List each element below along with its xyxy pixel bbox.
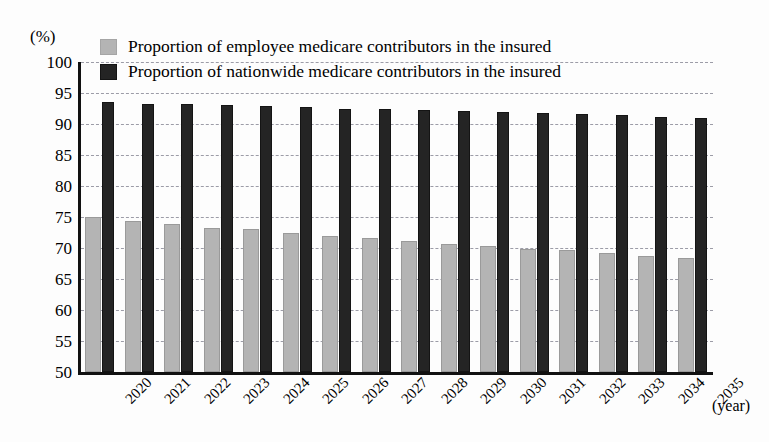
x-tick-label: 2028 (439, 375, 471, 407)
bar-group (516, 62, 556, 372)
bar-employee-2031 (520, 249, 536, 372)
legend-item-nationwide: Proportion of nationwide medicare contri… (100, 59, 561, 84)
bar-group (674, 62, 714, 372)
bar-employee-2029 (441, 244, 457, 372)
y-axis-tick-labels: 10095908580757065605550 (24, 62, 72, 372)
bar-group (555, 62, 595, 372)
bar-group (595, 62, 635, 372)
x-tick-label: 2031 (557, 375, 589, 407)
bar-employee-2023 (204, 228, 220, 372)
legend-label-nationwide: Proportion of nationwide medicare contri… (128, 63, 561, 81)
plot-area (78, 62, 713, 375)
legend-swatch-icon-nationwide (100, 64, 117, 80)
y-tick-label: 60 (26, 302, 72, 319)
x-tick-label: 2020 (123, 375, 155, 407)
bar-nationwide-2028 (418, 110, 430, 372)
bar-nationwide-2034 (655, 117, 667, 372)
bar-group (476, 62, 516, 372)
x-tick-label: 2034 (676, 375, 708, 407)
bar-group (318, 62, 358, 372)
bar-nationwide-2025 (300, 107, 312, 372)
bar-nationwide-2021 (142, 104, 154, 372)
legend-item-employee: Proportion of employee medicare contribu… (100, 34, 561, 59)
bar-group (437, 62, 477, 372)
x-tick-label: 2030 (518, 375, 550, 407)
x-tick-label: 2027 (399, 375, 431, 407)
bar-employee-2032 (559, 250, 575, 372)
bar-group (121, 62, 161, 372)
x-tick-label: 2029 (478, 375, 510, 407)
y-tick-label: 95 (26, 85, 72, 102)
bar-employee-2026 (322, 236, 338, 372)
bar-employee-2030 (480, 246, 496, 372)
bar-group (397, 62, 437, 372)
bar-group (279, 62, 319, 372)
bar-employee-2022 (164, 224, 180, 372)
x-tick-label: 2032 (597, 375, 629, 407)
bar-employee-2034 (638, 256, 654, 372)
x-tick-label: 2023 (241, 375, 273, 407)
y-tick-label: 50 (26, 364, 72, 381)
bar-nationwide-2022 (181, 104, 193, 372)
x-tick-label: 2026 (360, 375, 392, 407)
bar-nationwide-2035 (695, 118, 707, 372)
bar-employee-2024 (243, 229, 259, 372)
bar-group (634, 62, 674, 372)
bar-nationwide-2024 (260, 106, 272, 372)
y-tick-label: 90 (26, 116, 72, 133)
bar-employee-2020 (85, 217, 101, 372)
x-tick-label: 2024 (281, 375, 313, 407)
bar-employee-2025 (283, 233, 299, 372)
y-tick-label: 55 (26, 333, 72, 350)
x-tick-label: 2033 (636, 375, 668, 407)
x-tick-label: 2025 (320, 375, 352, 407)
bar-nationwide-2026 (339, 109, 351, 373)
x-axis-unit-label: (year) (712, 398, 750, 414)
bar-employee-2033 (599, 253, 615, 372)
y-axis-unit-label: (%) (30, 28, 55, 45)
bar-nationwide-2023 (221, 105, 233, 372)
bar-employee-2027 (362, 238, 378, 372)
legend-label-employee: Proportion of employee medicare contribu… (128, 38, 551, 56)
bar-nationwide-2033 (616, 115, 628, 372)
bar-nationwide-2032 (576, 114, 588, 372)
bar-employee-2028 (401, 241, 417, 372)
y-tick-label: 75 (26, 209, 72, 226)
legend-swatch-icon-employee (100, 39, 117, 55)
bar-employee-2035 (678, 258, 694, 372)
bar-group (160, 62, 200, 372)
bar-group (200, 62, 240, 372)
bar-nationwide-2027 (379, 109, 391, 372)
y-tick-label: 70 (26, 240, 72, 257)
x-axis-tick-labels: 2020202120222023202420252026202720282029… (78, 375, 710, 435)
bar-nationwide-2030 (497, 112, 509, 372)
bar-group (239, 62, 279, 372)
y-tick-label: 80 (26, 178, 72, 195)
bar-group (81, 62, 121, 372)
y-tick-label: 65 (26, 271, 72, 288)
bar-chart: (%) 10095908580757065605550 Proportion o… (0, 0, 769, 442)
bar-group (358, 62, 398, 372)
bars-layer (81, 62, 713, 372)
bar-employee-2021 (125, 221, 141, 372)
bar-nationwide-2031 (537, 113, 549, 372)
bar-nationwide-2020 (102, 102, 114, 372)
y-tick-label: 85 (26, 147, 72, 164)
chart-legend: Proportion of employee medicare contribu… (100, 34, 561, 84)
x-tick-label: 2021 (162, 375, 194, 407)
bar-nationwide-2029 (458, 111, 470, 372)
x-tick-label: 2022 (202, 375, 234, 407)
y-tick-label: 100 (26, 54, 72, 71)
